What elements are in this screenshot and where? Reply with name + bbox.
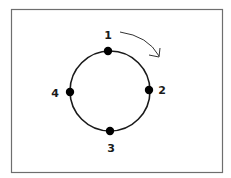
node-3-label: 3	[107, 142, 115, 155]
node-1-dot	[104, 47, 112, 55]
node-4-label: 4	[51, 87, 59, 100]
node-2-label: 2	[158, 84, 166, 97]
diagram-frame	[12, 10, 223, 173]
node-1-label: 1	[104, 29, 112, 42]
node-3-dot	[106, 127, 114, 135]
node-2-dot	[145, 86, 153, 94]
node-4-dot	[66, 88, 74, 96]
cycle-diagram: 1 2 3 4	[0, 0, 231, 178]
